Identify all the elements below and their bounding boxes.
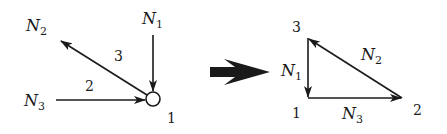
- member-3-label: 3: [114, 48, 123, 64]
- side-n1-label: N1: [280, 61, 302, 83]
- force-n2-label: N2: [25, 16, 47, 38]
- vertex-1-label: 1: [292, 105, 301, 121]
- side-n3-label: N3: [341, 104, 363, 126]
- node-circle: [146, 92, 160, 106]
- node-1-label: 1: [167, 110, 176, 126]
- force-triangle: 3 1 2 N1 N2 N3: [280, 19, 422, 126]
- force-n3-label: N3: [23, 91, 45, 113]
- force-polygon-figure: N1 N2 N3 3 2 1 3 1 2 N1 N2 N3: [0, 0, 447, 134]
- side-n2-arrow: [309, 39, 402, 98]
- transition-arrow-icon: [210, 59, 270, 85]
- vertex-2-label: 2: [413, 102, 422, 118]
- side-n2-label: N2: [360, 45, 382, 67]
- force-n2-arrow: [61, 41, 147, 95]
- node-free-body-diagram: N1 N2 N3 3 2 1: [23, 9, 176, 126]
- member-2-label: 2: [85, 78, 94, 94]
- vertex-3-label: 3: [292, 19, 301, 35]
- force-n1-label: N1: [141, 9, 163, 31]
